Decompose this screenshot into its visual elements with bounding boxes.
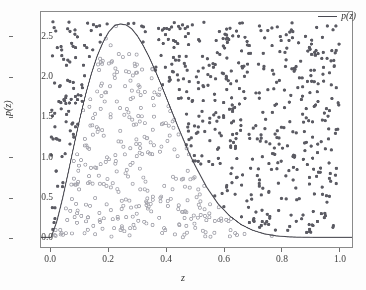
y-tick-mark [9,238,13,239]
legend: p(z) [318,12,356,22]
density-curve-layer [41,12,352,247]
x-tick-mark [50,248,51,252]
y-tick-mark [9,198,13,199]
plot-area [40,11,353,248]
y-tick-mark [9,77,13,78]
y-tick-label: 2.0 [19,72,53,82]
y-tick-label: 1.0 [19,153,53,163]
x-tick-label: 1.0 [320,255,360,265]
x-tick-label: 0.2 [88,255,128,265]
y-tick-label: 0.0 [19,233,53,243]
x-tick-label: 0.8 [262,255,302,265]
legend-label-pz: p(z) [341,12,356,22]
y-tick-mark [9,157,13,158]
y-axis-title: p(z) [2,100,13,116]
y-tick-mark [9,36,13,37]
y-tick-mark [9,117,13,118]
x-tick-mark [108,248,109,252]
scatter-plot-figure: 0.00.51.01.52.02.5 0.00.20.40.60.81.0 z … [0,0,366,290]
x-tick-label: 0.6 [204,255,244,265]
x-tick-mark [166,248,167,252]
x-axis-title: z [0,272,366,283]
x-tick-mark [224,248,225,252]
x-tick-mark [281,248,282,252]
y-tick-label: 1.5 [19,112,53,122]
x-tick-label: 0.0 [30,255,70,265]
x-tick-label: 0.4 [146,255,186,265]
x-tick-mark [339,248,340,252]
y-tick-label: 0.5 [19,193,53,203]
legend-line-swatch [318,16,337,17]
y-tick-label: 2.5 [19,32,53,42]
